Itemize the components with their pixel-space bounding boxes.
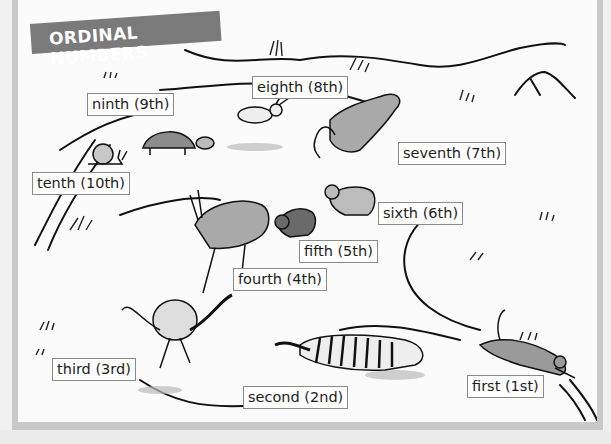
cat — [275, 209, 315, 237]
tortoise — [143, 132, 214, 155]
label-fourth: fourth (4th) — [233, 268, 327, 291]
label-seventh: seventh (7th) — [398, 142, 506, 165]
outer-margin-left — [0, 0, 12, 444]
snail — [88, 144, 127, 164]
ostrich — [122, 295, 232, 368]
label-fifth: fifth (5th) — [299, 240, 378, 263]
label-third: third (3rd) — [52, 358, 136, 381]
label-sixth: sixth (6th) — [378, 202, 463, 225]
label-second: second (2nd) — [243, 386, 348, 409]
cheetah — [480, 310, 575, 378]
label-first: first (1st) — [467, 375, 544, 398]
label-ninth: ninth (9th) — [87, 93, 174, 116]
kangaroo — [314, 94, 400, 158]
outer-margin-right — [603, 0, 611, 444]
label-tenth: tenth (10th) — [32, 172, 130, 195]
zebra — [275, 335, 423, 370]
dog — [325, 185, 375, 215]
outer-margin-bottom — [0, 430, 611, 444]
label-eighth: eighth (8th) — [252, 76, 348, 99]
